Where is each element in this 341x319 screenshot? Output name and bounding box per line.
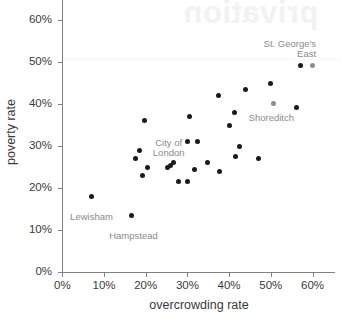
data-point[interactable] [176,179,181,184]
point-label: City of London [132,138,206,158]
data-point[interactable] [233,154,238,159]
x-tick-mark [146,273,147,277]
data-point[interactable] [243,87,248,92]
data-point[interactable] [227,123,232,128]
data-point[interactable] [129,213,134,218]
x-tick-label: 10% [84,280,124,291]
x-axis-title: overcrowding rate [62,298,336,312]
y-tick-mark [58,230,62,231]
y-axis-line [62,0,63,273]
data-point[interactable] [216,93,221,98]
x-tick-mark [104,273,105,277]
x-tick-label: 50% [251,280,291,291]
x-tick-label: 60% [293,280,333,291]
point-label: St. George's East [242,39,316,59]
y-tick-mark [58,188,62,189]
y-tick-mark [58,146,62,147]
y-tick-label: 50% [0,56,52,67]
data-point[interactable] [310,63,315,68]
x-tick-mark [271,273,272,277]
y-tick-label: 0% [0,266,52,277]
data-point[interactable] [268,81,273,86]
x-axis-line [62,272,335,273]
point-label: Lewisham [55,212,129,222]
data-point[interactable] [142,118,147,123]
data-point[interactable] [192,167,197,172]
data-point[interactable] [237,144,242,149]
x-tick-label: 20% [126,280,166,291]
x-tick-mark [62,273,63,277]
y-tick-mark [58,104,62,105]
watermark-text: privation [183,0,318,31]
data-point[interactable] [217,169,222,174]
point-label: Shoreditch [234,113,308,123]
data-point[interactable] [187,114,192,119]
y-axis-title: poverty rate [4,77,18,187]
y-tick-label: 60% [0,14,52,25]
data-point[interactable] [89,194,94,199]
x-tick-mark [229,273,230,277]
point-label: Hampstead [97,231,171,241]
data-point[interactable] [140,173,145,178]
data-point[interactable] [145,165,150,170]
data-point[interactable] [205,160,210,165]
x-tick-label: 30% [167,280,207,291]
y-tick-mark [58,62,62,63]
x-tick-mark [313,273,314,277]
scatter-chart: privation 0%10%20%30%40%50%60% 0%10%20%3… [0,0,341,319]
x-tick-mark [187,273,188,277]
x-tick-label: 40% [209,280,249,291]
data-point[interactable] [171,160,176,165]
data-point[interactable] [256,156,261,161]
data-point[interactable] [271,101,276,106]
y-tick-mark [58,20,62,21]
y-tick-label: 10% [0,224,52,235]
x-tick-label: 0% [42,280,82,291]
data-point[interactable] [185,179,190,184]
data-point[interactable] [298,63,303,68]
data-point[interactable] [294,105,299,110]
